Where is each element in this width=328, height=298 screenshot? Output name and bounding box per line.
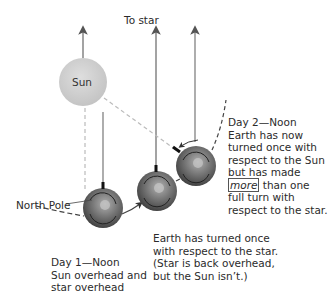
north-pole-label: North Pole xyxy=(16,199,70,212)
orbit-path-day1-middle xyxy=(122,204,140,214)
earth-middle xyxy=(137,165,177,211)
to-star-label: To star xyxy=(124,14,159,27)
more-emphasis: more xyxy=(228,178,259,192)
middle-caption: Earth has turned once with respect to th… xyxy=(153,232,278,282)
north-pole-marker xyxy=(102,182,105,189)
sun-label: Sun xyxy=(72,76,92,88)
orbit-path-right xyxy=(212,100,226,150)
day1-caption: Day 1—Noon Sun overhead and star overhea… xyxy=(51,256,147,294)
earth-day1 xyxy=(83,182,123,228)
day2-caption: Day 2—Noon Earth has now turned once wit… xyxy=(228,116,328,216)
sun-direction-dashed-day2 xyxy=(104,98,176,150)
